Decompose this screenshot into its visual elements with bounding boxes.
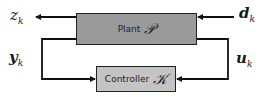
- controller-label: Controller: [105, 74, 149, 84]
- signal-z-base: z: [10, 6, 18, 24]
- controller-block: Controller 𝒦: [96, 66, 176, 92]
- signal-z-sub: k: [18, 16, 23, 26]
- controller-symbol: 𝒦: [153, 70, 167, 88]
- plant-block: Plant 𝒫: [76, 13, 197, 45]
- signal-u-label: uk: [236, 51, 252, 69]
- signal-y-label: yk: [9, 50, 23, 68]
- signal-d-base: d: [239, 4, 250, 22]
- plant-symbol: 𝒫: [144, 20, 155, 38]
- arrow-y-loop: [42, 39, 95, 79]
- block-diagram: Plant 𝒫 Controller 𝒦 zk dk yk uk: [0, 0, 271, 97]
- signal-u-base: u: [236, 49, 247, 67]
- plant-label: Plant: [118, 24, 141, 34]
- signal-u-sub: k: [247, 59, 252, 69]
- arrow-u-loop: [177, 39, 228, 79]
- signal-d-sub: k: [250, 14, 255, 24]
- signal-y-sub: k: [18, 58, 23, 68]
- signal-d-label: dk: [239, 6, 255, 24]
- signal-z-label: zk: [10, 8, 23, 26]
- signal-y-base: y: [9, 48, 18, 66]
